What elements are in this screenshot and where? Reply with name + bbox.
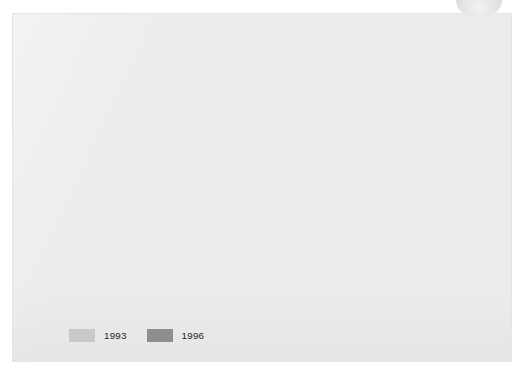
legend-item-1993: 1993 — [69, 329, 127, 342]
legend-swatch-1996 — [147, 329, 173, 342]
legend-item-1996: 1996 — [147, 329, 205, 342]
legend-swatch-1993 — [69, 329, 95, 342]
legend-label-1996: 1996 — [182, 330, 205, 341]
figure-panel — [13, 14, 511, 361]
panel-texture-overlay — [13, 14, 511, 361]
chart-legend: 19931996 — [69, 329, 204, 342]
legend-label-1993: 1993 — [104, 330, 127, 341]
